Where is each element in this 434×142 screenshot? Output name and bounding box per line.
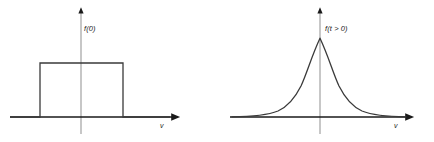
curve-label-initial: f(0): [84, 24, 96, 33]
two-panel-distribution-figure: f(0) v f(t > 0) v: [0, 0, 434, 142]
curve-label-evolved: f(t > 0): [325, 24, 348, 33]
rectangular-pulse-curve: [10, 63, 170, 117]
initial-distribution-plot: f(0) v: [0, 0, 217, 142]
evolved-distribution-plot: f(t > 0) v: [217, 0, 434, 142]
x-axis-label-right: v: [394, 122, 398, 129]
bell-curve: [232, 38, 406, 117]
x-axis-label-left: v: [160, 122, 164, 129]
